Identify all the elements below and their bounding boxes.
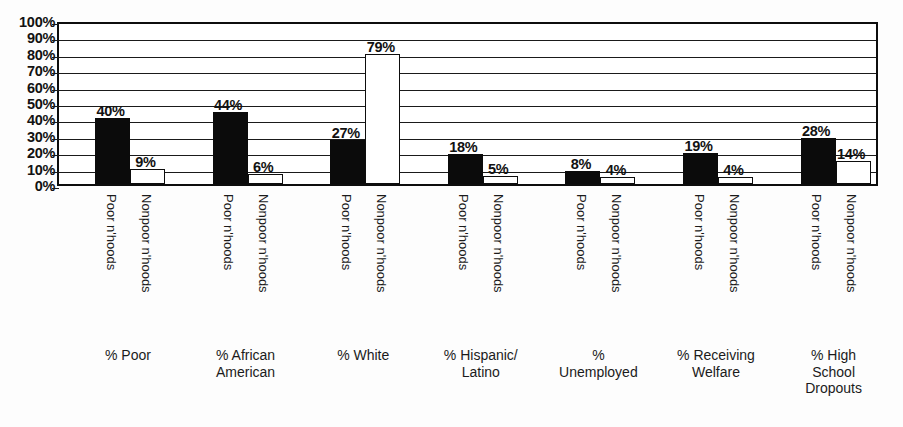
series-label-poor: Poor n'hoods [810,194,823,270]
y-axis-tick-label: 60% [3,81,55,96]
bar-value-label: 40% [84,104,137,119]
category-label: % African American [184,347,308,380]
bar-nonpoor [718,177,753,184]
y-axis-tick-label: 30% [3,130,55,145]
series-label-poor: Poor n'hoods [105,194,118,270]
series-label-nonpoor: Nonpoor n'hoods [140,194,153,293]
bar-value-label: 5% [472,162,525,177]
category-label: % High School Dropouts [772,347,896,397]
plot-area [57,22,878,186]
series-label-poor: Poor n'hoods [693,194,706,270]
bar-nonpoor [248,174,283,184]
y-axis-tick-mark [52,172,59,173]
chart-figure: 100%90%80%70%60%50%40%30%20%10%0% Poor n… [0,0,903,427]
y-axis-tick-labels: 100%90%80%70%60%50%40%30%20%10%0% [0,0,55,427]
category-label: % Hispanic/ Latino [419,347,543,380]
y-axis-tick-label: 40% [3,113,55,128]
y-axis-tick-label: 80% [3,48,55,63]
bar-poor [95,118,130,184]
bar-value-label: 18% [437,140,490,155]
bar-value-label: 44% [202,98,255,113]
y-axis-tick-label: 50% [3,97,55,112]
category-label: % White [301,347,425,364]
y-axis-tick-label: 90% [3,31,55,46]
y-axis-tick-mark [52,139,59,140]
y-axis-tick-label: 100% [3,15,55,30]
bar-value-label: 27% [319,126,372,141]
bar-value-label: 14% [825,147,878,162]
bar-value-label: 79% [354,40,407,55]
y-axis-tick-label: 20% [3,146,55,161]
series-label-poor: Poor n'hoods [340,194,353,270]
y-axis-tick-label: 70% [3,64,55,79]
y-axis-tick-mark [52,73,59,74]
bar-value-label: 4% [589,163,642,178]
y-axis-tick-mark [52,90,59,91]
y-axis-tick-mark [52,155,59,156]
bar-value-label: 6% [237,160,290,175]
y-axis-tick-mark [52,122,59,123]
gridline [59,106,876,107]
y-axis-tick-mark [52,57,59,58]
series-label-nonpoor: Nonpoor n'hoods [375,194,388,293]
bar-nonpoor [365,54,400,184]
series-label-nonpoor: Nonpoor n'hoods [257,194,270,293]
bar-poor [330,140,365,184]
y-axis-tick-label: 10% [3,163,55,178]
bar-nonpoor [836,161,871,184]
gridline [59,122,876,123]
bar-nonpoor [600,177,635,184]
bar-value-label: 19% [672,139,725,154]
category-label: % Poor [66,347,190,364]
gridline [59,73,876,74]
bar-value-label: 4% [707,163,760,178]
y-axis-tick-mark [52,40,59,41]
series-label-nonpoor: Nonpoor n'hoods [845,194,858,293]
series-label-nonpoor: Nonpoor n'hoods [492,194,505,293]
bar-value-label: 28% [790,124,843,139]
y-axis-tick-mark [52,106,59,107]
y-axis-tick-label: 0% [3,179,55,194]
category-label: % Unemployed [536,347,660,380]
series-label-poor: Poor n'hoods [575,194,588,270]
bar-nonpoor [130,169,165,184]
y-axis-tick-mark [52,188,59,189]
y-axis-tick-mark [52,24,59,25]
category-label: % Receiving Welfare [654,347,778,380]
gridline [59,57,876,58]
gridline [59,90,876,91]
series-label-nonpoor: Nonpoor n'hoods [610,194,623,293]
gridline [59,40,876,41]
series-label-poor: Poor n'hoods [457,194,470,270]
series-label-poor: Poor n'hoods [222,194,235,270]
bar-nonpoor [483,176,518,184]
series-label-nonpoor: Nonpoor n'hoods [728,194,741,293]
bar-value-label: 9% [119,155,172,170]
